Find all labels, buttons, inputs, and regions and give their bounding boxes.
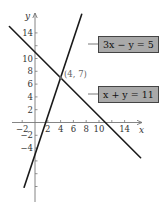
x-tick-label: 6 [71,124,76,134]
y-tick-label: 6 [28,79,33,89]
y-tick-label: −2 [20,130,33,140]
x-tick-label: 10 [94,124,105,134]
y-tick-label: 2 [28,105,33,115]
y-tick-label: 10 [22,54,33,64]
x-axis-label: x [139,125,144,135]
y-tick-label: 14 [22,28,33,38]
legend-label-line1: 3x − y = 5 [98,36,159,53]
y-tick-label: −4 [20,143,33,153]
y-tick-label: 4 [28,92,33,102]
y-axis-label: y [24,11,31,21]
label-leaders [88,44,98,94]
intersection-point-marker [59,76,62,79]
x-tick-label: 14 [119,124,130,134]
x-tick-label: 2 [45,124,50,134]
y-tick-label: 8 [28,66,33,76]
x-tick-label: 4 [58,124,63,134]
legend-label-line2: x + y = 11 [98,86,159,103]
x-tick-label: 8 [83,124,88,134]
intersection-point-label: (4, 7) [64,69,87,79]
